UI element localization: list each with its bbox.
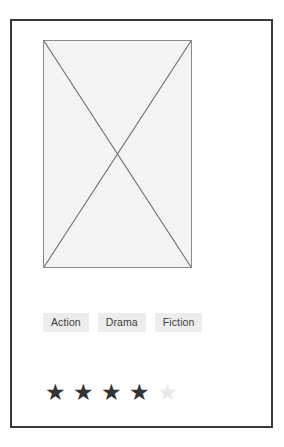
star-icon-5[interactable]: ★ xyxy=(157,379,178,405)
star-icon-1[interactable]: ★ xyxy=(45,379,66,405)
tag-list: Action Drama Fiction xyxy=(43,313,243,332)
image-placeholder[interactable] xyxy=(43,40,192,268)
media-card[interactable]: Action Drama Fiction ★ ★ ★ ★ ★ xyxy=(10,19,273,428)
image-placeholder-cross-icon xyxy=(44,41,191,267)
star-icon-2[interactable]: ★ xyxy=(73,379,94,405)
tag-chip-action[interactable]: Action xyxy=(43,313,89,332)
screenshot-root: Action Drama Fiction ★ ★ ★ ★ ★ xyxy=(0,0,284,447)
star-rating[interactable]: ★ ★ ★ ★ ★ xyxy=(45,379,178,405)
tag-chip-fiction[interactable]: Fiction xyxy=(155,313,203,332)
star-icon-4[interactable]: ★ xyxy=(129,379,150,405)
tag-chip-drama[interactable]: Drama xyxy=(98,313,146,332)
star-icon-3[interactable]: ★ xyxy=(101,379,122,405)
